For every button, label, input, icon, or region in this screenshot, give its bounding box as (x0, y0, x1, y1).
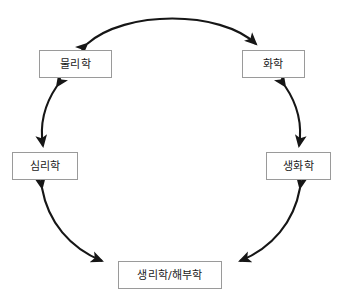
node-chemistry: 화학 (242, 50, 305, 78)
connector-psychology-physiology (42, 188, 102, 261)
node-psychology-label: 심리학 (30, 161, 61, 172)
node-physiology: 생리학/해부학 (118, 261, 222, 289)
node-chemistry-label: 화학 (263, 59, 283, 70)
arrow-layer (0, 0, 342, 297)
node-biochemistry: 생화학 (266, 152, 331, 180)
node-physiology-label: 생리학/해부학 (137, 270, 202, 281)
node-physics-label: 물리학 (60, 59, 91, 70)
node-psychology: 심리학 (12, 152, 78, 180)
connector-physics-chemistry (87, 19, 256, 45)
node-physics: 물리학 (39, 50, 112, 78)
connector-physics-psychology (42, 86, 57, 146)
connector-biochemistry-physiology (240, 188, 300, 261)
cycle-diagram: 물리학 화학 심리학 생화학 생리학/해부학 (0, 0, 342, 297)
node-biochemistry-label: 생화학 (283, 161, 314, 172)
connector-chemistry-biochemistry (285, 86, 300, 146)
